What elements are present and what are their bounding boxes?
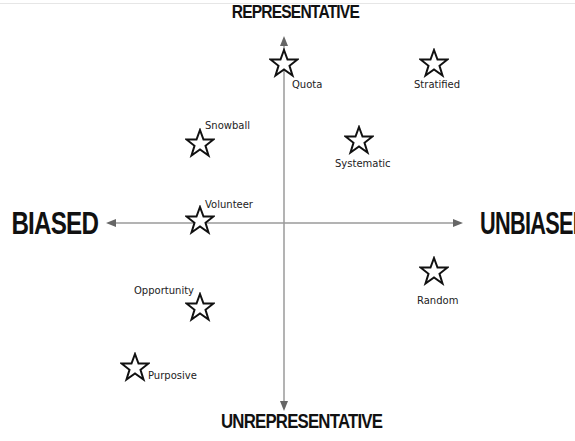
- star-outline-icon: [344, 125, 374, 155]
- point-label: Purposive: [148, 370, 197, 381]
- arrow-up-icon: [280, 36, 288, 46]
- point-label: Stratified: [414, 79, 460, 90]
- axis-title-unbiased: UNBIASED: [480, 206, 560, 242]
- point-label: Volunteer: [205, 199, 253, 210]
- point-label: Random: [417, 295, 458, 306]
- star-outline-icon: [419, 48, 449, 78]
- star-outline-icon: [120, 352, 150, 382]
- point-label: Snowball: [205, 120, 250, 131]
- point-label: Opportunity: [134, 285, 194, 296]
- star-outline-icon: [269, 48, 299, 78]
- axis-title-representative: REPRESENTATIVE: [232, 1, 339, 23]
- axis-title-biased: BIASED: [11, 206, 92, 242]
- star-outline-icon: [185, 292, 215, 322]
- arrow-left-icon: [106, 219, 116, 227]
- star-outline-icon: [185, 128, 215, 158]
- arrow-right-icon: [453, 219, 463, 227]
- point-label: Systematic: [335, 158, 391, 169]
- axis-title-unrepresentative: UNREPRESENTATIVE: [221, 409, 349, 433]
- point-label: Quota: [292, 79, 322, 90]
- star-outline-icon: [419, 256, 449, 286]
